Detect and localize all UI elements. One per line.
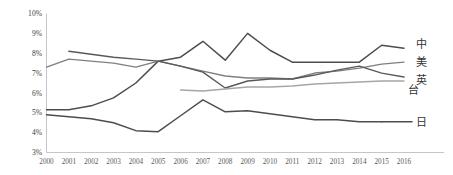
series-lines [47,33,413,131]
series-label-中: 中 [416,38,427,50]
x-tick-label: 2006 [173,158,188,166]
x-tick-label: 2012 [307,158,322,166]
y-tick-label: 8% [32,49,43,58]
y-tick-label: 7% [32,69,43,78]
x-tick-label: 2009 [240,158,255,166]
series-label-日: 日 [416,116,427,128]
y-tick-label: 3% [32,148,43,157]
x-tick-label: 2004 [129,158,144,166]
x-tick-label: 2008 [218,158,233,166]
x-tick-label: 2001 [62,158,77,166]
x-axis-tick-labels: 2000200120022003200420052006200720082009… [39,158,411,166]
y-tick-label: 10% [28,9,43,18]
series-end-labels: 中美英台日 [408,38,427,128]
x-tick-label: 2003 [106,158,121,166]
x-tick-label: 2007 [196,158,211,166]
y-tick-label: 5% [32,108,43,117]
y-tick-label: 6% [32,89,43,98]
series-line-中 [47,33,405,109]
x-tick-label: 2013 [330,158,345,166]
series-label-美: 美 [416,56,427,68]
line-chart: 3%4%5%6%7%8%9%10% 2000200120022003200420… [0,0,453,175]
y-axis-tick-labels: 3%4%5%6%7%8%9%10% [28,9,43,157]
x-tick-label: 2000 [39,158,54,166]
y-tick-label: 9% [32,29,43,38]
series-label-台: 台 [408,83,419,96]
x-tick-label: 2010 [263,158,278,166]
y-tick-label: 4% [32,128,43,137]
x-tick-label: 2002 [84,158,99,166]
axes [47,14,445,153]
x-tick-label: 2016 [397,158,412,166]
x-tick-label: 2011 [285,158,300,166]
x-tick-label: 2014 [352,158,367,166]
chart-canvas: 3%4%5%6%7%8%9%10% 2000200120022003200420… [0,0,453,175]
x-tick-label: 2015 [374,158,389,166]
x-tick-label: 2005 [151,158,166,166]
series-line-台 [181,81,404,91]
